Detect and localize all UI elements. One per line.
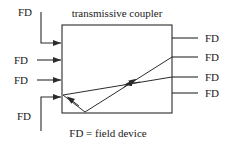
input-line-4 (41, 97, 61, 131)
output-label-3: FD (205, 71, 219, 83)
light-path-reflect-line (63, 95, 85, 112)
figure-caption: FD = field device (69, 127, 146, 139)
output-label-4: FD (205, 87, 219, 99)
transmissive-coupler-figure: transmissive coupler FD FD FD FD FD FD (0, 0, 232, 146)
input-connector-1 (41, 12, 61, 43)
light-path-downward-line (63, 77, 172, 95)
diagram-canvas: transmissive coupler FD FD FD FD FD FD (0, 0, 232, 146)
input-label-4: FD (17, 110, 31, 122)
light-path-downward (63, 77, 172, 95)
input-label-2: FD (14, 54, 28, 66)
input-label-3: FD (14, 74, 28, 86)
light-path-reflect-arrow (70, 99, 79, 106)
coupler-box (62, 25, 172, 113)
output-label-1: FD (205, 32, 219, 44)
input-label-1: FD (18, 6, 32, 18)
output-label-2: FD (205, 51, 219, 63)
input-line-1 (41, 12, 61, 43)
input-connector-4 (41, 97, 61, 131)
page-title: transmissive coupler (72, 7, 163, 19)
